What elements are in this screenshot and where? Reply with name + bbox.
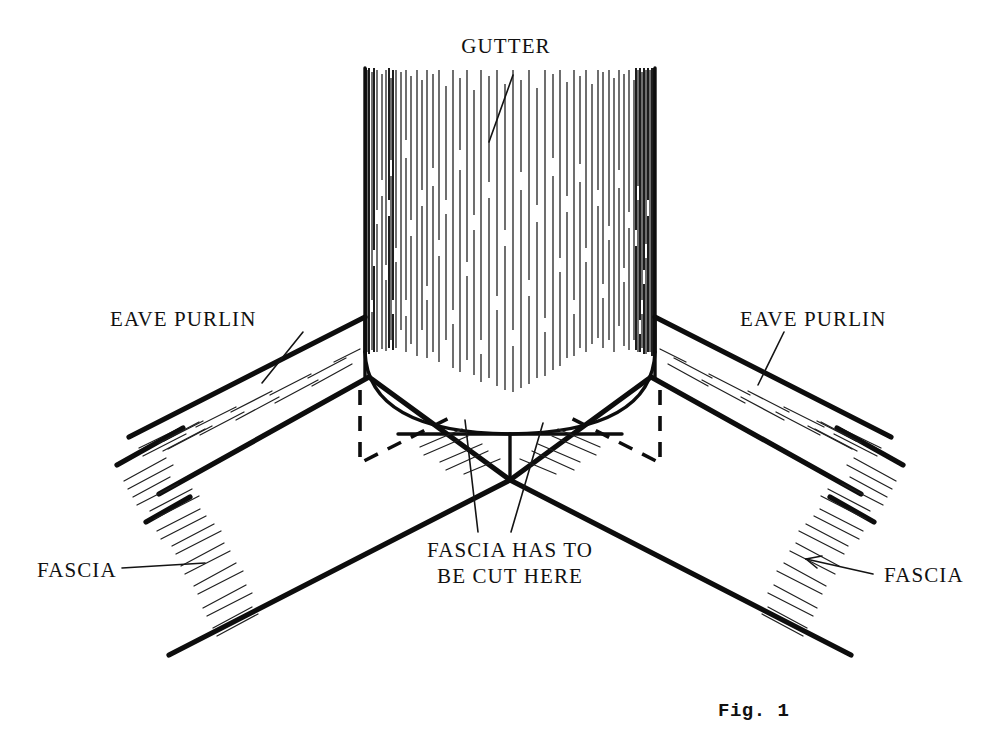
eave-purlin-left: [129, 317, 369, 494]
eave-purlin-right: [651, 317, 891, 494]
label-gutter: GUTTER: [416, 34, 596, 59]
technical-drawing-canvas: [0, 0, 1003, 731]
label-fascia-cut-line2: BE CUT HERE: [395, 564, 625, 589]
gutter-cylinder: [365, 68, 655, 434]
label-eave-purlin-left: EAVE PURLIN: [110, 307, 256, 332]
figure-caption: Fig. 1: [718, 700, 789, 722]
leader-fascia-right-arrow-a: [806, 556, 822, 559]
label-fascia-cut-line1: FASCIA HAS TO: [395, 538, 625, 563]
label-eave-purlin-right: EAVE PURLIN: [740, 307, 886, 332]
leader-eave-purlin-left: [262, 332, 303, 383]
figure-root: GUTTER EAVE PURLIN EAVE PURLIN FASCIA FA…: [0, 0, 1003, 731]
fascia-right-hatching: [762, 422, 896, 636]
label-fascia-right: FASCIA: [884, 563, 964, 588]
leader-fascia-left: [122, 563, 205, 568]
leader-fascia-cut-left: [465, 420, 478, 532]
fascia-left-hatching: [124, 422, 258, 636]
label-fascia-left: FASCIA: [37, 558, 117, 583]
